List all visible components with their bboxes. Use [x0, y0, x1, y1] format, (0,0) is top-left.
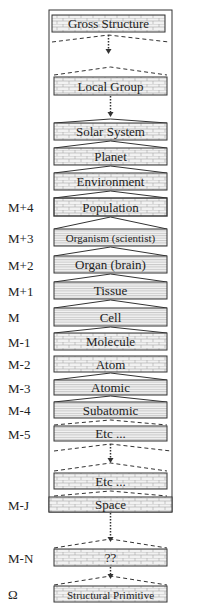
- level-label-organ: Organ (brain): [75, 257, 146, 272]
- connector-planet: [54, 166, 167, 173]
- level-label-tissue: Tissue: [94, 283, 128, 298]
- connector-tissue: [54, 300, 167, 308]
- level-box-environment: Environment: [54, 173, 167, 190]
- connector-organ: [54, 274, 167, 282]
- side-label-molecule: M-1: [8, 335, 30, 350]
- connector-etc-lower: [54, 491, 167, 496]
- level-box-molecule: Molecule: [54, 333, 167, 350]
- level-label-organism: Organism (scientist): [66, 232, 156, 245]
- level-box-structural-primitive: Structural Primitive: [54, 586, 167, 602]
- level-label-local-group: Local Group: [77, 79, 143, 94]
- level-box-subatomic: Subatomic: [54, 402, 167, 418]
- connector-atom: [54, 373, 167, 380]
- connector-gross-structure: [52, 35, 169, 75]
- level-box-local-group: Local Group: [54, 77, 167, 95]
- level-box-etc-upper: Etc ...: [54, 426, 167, 441]
- level-label-atomic: Atomic: [91, 380, 130, 395]
- level-box-solar-system: Solar System: [54, 123, 167, 140]
- level-box-cell: Cell: [54, 308, 167, 326]
- level-box-space: Space: [49, 497, 172, 512]
- level-label-planet: Planet: [94, 149, 127, 164]
- level-box-etc-lower: Etc ...: [54, 473, 167, 489]
- level-box-atom: Atom: [54, 356, 167, 372]
- connector-unknown: [54, 567, 167, 585]
- connector-atomic: [54, 396, 167, 402]
- level-label-unknown: ??: [105, 550, 117, 565]
- level-box-organ: Organ (brain): [54, 256, 167, 273]
- side-label-cell: M: [8, 310, 20, 325]
- connector-environment: [54, 191, 167, 198]
- level-label-subatomic: Subatomic: [83, 403, 139, 418]
- level-label-environment: Environment: [77, 174, 145, 189]
- hierarchy-diagram: Gross StructureLocal GroupSolar SystemPl…: [0, 0, 197, 603]
- side-label-atom: M-2: [8, 357, 30, 372]
- level-label-solar-system: Solar System: [76, 124, 145, 139]
- level-label-structural-primitive: Structural Primitive: [67, 589, 154, 601]
- level-box-gross-structure: Gross Structure: [52, 15, 165, 32]
- side-label-structural-primitive: Ω: [8, 587, 18, 602]
- connector-solar-system: [54, 141, 167, 148]
- level-box-population: Population: [54, 198, 167, 216]
- side-label-population: M+4: [8, 200, 34, 215]
- connector-etc-upper: [54, 444, 171, 471]
- connector-organism: [54, 247, 167, 256]
- level-box-unknown: ??: [54, 549, 167, 566]
- level-box-tissue: Tissue: [54, 282, 167, 299]
- side-label-organism: M+3: [8, 231, 33, 246]
- side-label-organ: M+2: [8, 258, 33, 273]
- level-label-etc-upper: Etc ...: [95, 426, 125, 441]
- side-label-space: M-J: [8, 498, 29, 513]
- side-label-atomic: M-3: [8, 381, 30, 396]
- side-label-tissue: M+1: [8, 284, 33, 299]
- side-label-subatomic: M-4: [8, 403, 31, 418]
- level-label-space: Space: [95, 497, 126, 512]
- level-label-population: Population: [82, 200, 139, 215]
- level-label-etc-lower: Etc ...: [95, 474, 125, 489]
- connector-space: [54, 513, 167, 548]
- level-box-atomic: Atomic: [54, 380, 167, 395]
- connector-cell: [54, 327, 167, 333]
- connector-subatomic: [54, 420, 167, 425]
- level-box-planet: Planet: [54, 148, 167, 165]
- level-label-atom: Atom: [96, 357, 126, 372]
- level-label-molecule: Molecule: [86, 334, 135, 349]
- level-box-organism: Organism (scientist): [54, 229, 167, 246]
- connector-local-group: [54, 96, 167, 123]
- connector-population: [54, 217, 167, 229]
- level-label-gross-structure: Gross Structure: [68, 16, 149, 31]
- side-labels: M+4M+3M+2M+1MM-1M-2M-3M-4M-5M-JM-NΩ: [8, 200, 34, 602]
- side-label-etc-upper: M-5: [8, 427, 30, 442]
- level-label-cell: Cell: [100, 310, 122, 325]
- side-label-unknown: M-N: [8, 551, 34, 566]
